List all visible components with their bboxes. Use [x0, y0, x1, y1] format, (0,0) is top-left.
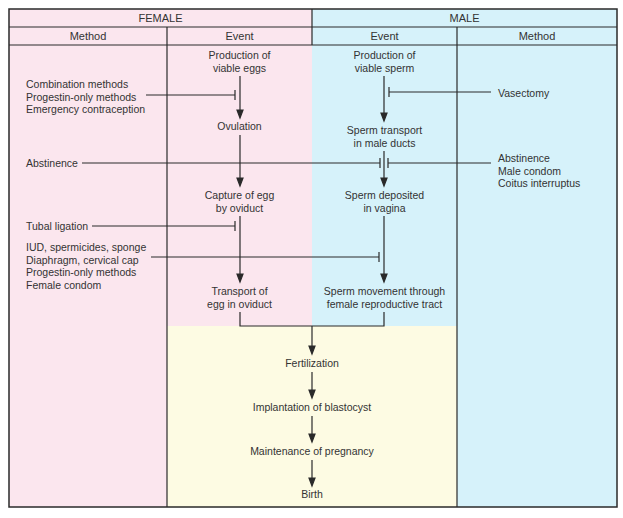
arrowhead-icon	[309, 478, 315, 486]
arrowhead-icon	[237, 274, 243, 282]
arrowhead-icon	[381, 178, 387, 186]
diagram-lines	[0, 0, 623, 518]
arrowhead-icon	[309, 434, 315, 442]
arrowhead-icon	[237, 178, 243, 186]
merge-bracket	[240, 312, 384, 326]
table-outer-border	[9, 9, 617, 507]
arrowhead-icon	[381, 113, 387, 121]
arrowhead-icon	[309, 346, 315, 354]
arrowhead-icon	[237, 110, 243, 118]
arrowhead-icon	[309, 390, 315, 398]
arrowhead-icon	[381, 274, 387, 282]
